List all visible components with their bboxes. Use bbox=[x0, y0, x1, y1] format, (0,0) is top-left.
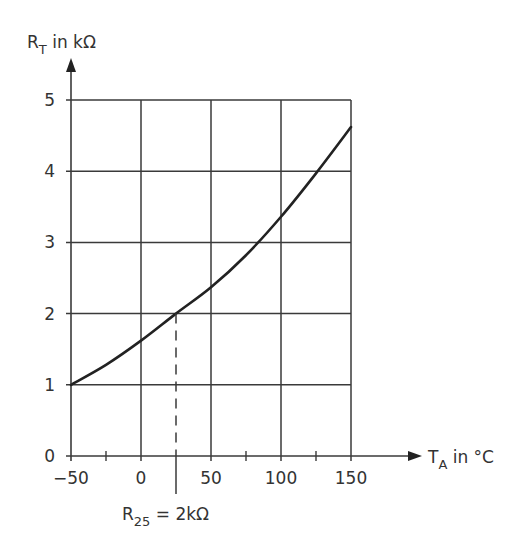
r25-label: R25 = 2kΩ bbox=[122, 504, 209, 529]
y-tick-label: 2 bbox=[44, 304, 55, 324]
y-tick-label: 3 bbox=[44, 232, 55, 252]
grid bbox=[66, 100, 351, 461]
y-tick-label: 1 bbox=[44, 375, 55, 395]
axes bbox=[66, 58, 422, 461]
y-tick-label: 4 bbox=[44, 161, 55, 181]
y-tick-label: 5 bbox=[44, 90, 55, 110]
y-tick-label: 0 bbox=[44, 446, 55, 466]
x-tick-label: 0 bbox=[136, 468, 147, 488]
tick-labels: −50050100150012345 bbox=[44, 90, 367, 488]
y-axis-arrow-icon bbox=[66, 58, 76, 72]
x-axis-label: TA in °C bbox=[427, 447, 494, 472]
x-tick-label: −50 bbox=[53, 468, 89, 488]
x-tick-label: 100 bbox=[265, 468, 297, 488]
x-tick-label: 50 bbox=[200, 468, 222, 488]
chart: −50050100150012345 RT in kΩ TA in °C R25… bbox=[0, 0, 528, 548]
x-axis-arrow-icon bbox=[408, 451, 422, 461]
y-axis-label: RT in kΩ bbox=[27, 32, 96, 57]
x-tick-label: 150 bbox=[335, 468, 367, 488]
